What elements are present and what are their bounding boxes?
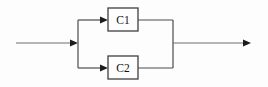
top-branch-arrowhead-icon [100, 17, 108, 24]
block-c1: C1 [108, 8, 138, 31]
parallel-system-diagram: C1 C2 [0, 0, 268, 87]
block-c1-label: C1 [116, 14, 130, 26]
bottom-branch-arrowhead-icon [100, 65, 108, 72]
block-c2-label: C2 [116, 62, 130, 74]
block-c2: C2 [108, 56, 138, 79]
input-arrowhead-icon [70, 40, 78, 47]
output-arrowhead-icon [243, 40, 251, 47]
diagram-canvas: C1 C2 [0, 0, 268, 87]
